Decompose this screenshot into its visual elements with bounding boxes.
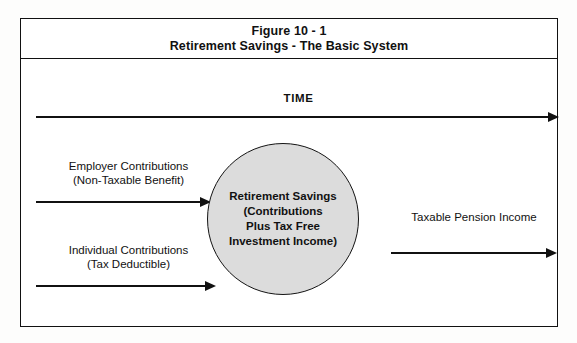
employer-contributions-line-1: Employer Contributions [36,159,221,173]
time-arrow-shaft [36,116,550,118]
retirement-savings-line-3: Plus Tax Free [246,219,320,234]
individual-arrow-head-icon [205,281,216,291]
figure-root: Figure 10 - 1 Retirement Savings - The B… [0,0,577,343]
individual-arrow-shaft [36,285,207,287]
time-arrow-head-icon [548,112,559,122]
diagram-body: TIME Employer Contributions (Non-Taxable… [21,59,557,326]
output-arrow-head-icon [546,248,557,258]
retirement-savings-line-1: Retirement Savings [229,189,336,204]
figure-frame: Figure 10 - 1 Retirement Savings - The B… [20,18,558,327]
employer-contributions-label: Employer Contributions (Non-Taxable Bene… [36,159,221,187]
retirement-savings-line-2: (Contributions [243,204,322,219]
employer-contributions-line-2: (Non-Taxable Benefit) [36,173,221,187]
time-axis-label: TIME [36,92,561,104]
retirement-savings-line-4: Investment Income) [229,234,337,249]
employer-arrow-shaft [36,201,202,203]
figure-title-band: Figure 10 - 1 Retirement Savings - The B… [21,19,557,59]
individual-contributions-line-1: Individual Contributions [36,243,221,257]
figure-title-line-1: Figure 10 - 1 [252,24,327,39]
taxable-pension-income-label: Taxable Pension Income [379,211,569,223]
output-arrow-shaft [391,252,548,254]
individual-contributions-line-2: (Tax Deductible) [36,257,221,271]
individual-contributions-label: Individual Contributions (Tax Deductible… [36,243,221,271]
retirement-savings-node: Retirement Savings (Contributions Plus T… [207,143,359,295]
figure-title-line-2: Retirement Savings - The Basic System [170,39,409,54]
